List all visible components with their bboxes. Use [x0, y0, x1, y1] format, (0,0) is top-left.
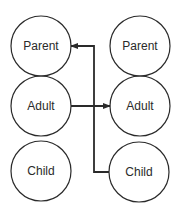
- left-child-node: Child: [11, 141, 71, 201]
- left-child-label: Child: [27, 164, 54, 178]
- right-column: Parent Adult Child: [109, 16, 170, 202]
- left-adult-node: Adult: [11, 76, 71, 136]
- right-child-node: Child: [109, 142, 169, 202]
- left-parent-node: Parent: [11, 16, 71, 76]
- left-adult-label: Adult: [27, 99, 55, 113]
- right-parent-label: Parent: [122, 39, 158, 53]
- child-to-parent-connector: [71, 46, 109, 172]
- right-adult-node: Adult: [110, 76, 170, 136]
- right-adult-label: Adult: [126, 99, 154, 113]
- arrow-left-icon: [71, 46, 109, 172]
- right-parent-node: Parent: [110, 16, 170, 76]
- right-child-label: Child: [125, 165, 152, 179]
- left-parent-label: Parent: [23, 39, 59, 53]
- ego-state-transaction-diagram: Parent Adult Child Parent Adult Child: [0, 0, 182, 213]
- left-column: Parent Adult Child: [11, 16, 71, 201]
